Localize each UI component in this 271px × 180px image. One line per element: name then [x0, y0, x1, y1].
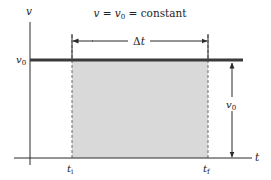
tf-label: tf — [203, 163, 211, 176]
area-under-curve — [72, 61, 208, 158]
velocity-time-diagram: v = v0 = constant v t v0 Δt ti tf v0 — [0, 0, 271, 180]
x-axis-label: t — [255, 151, 260, 163]
v0-level-label: v0 — [16, 54, 26, 67]
ti-label: ti — [67, 163, 74, 176]
delta-t-label: Δt — [133, 35, 146, 47]
title-equation: v = v0 = constant — [93, 7, 187, 21]
y-axis-label: v — [26, 5, 32, 17]
